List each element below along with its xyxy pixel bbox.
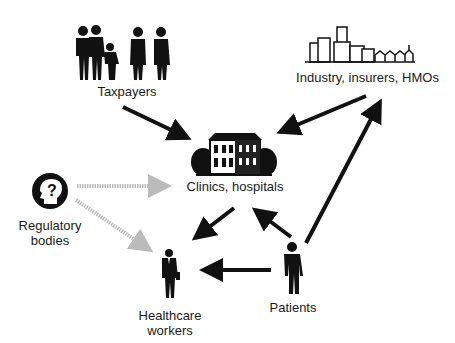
node-label-healthcare-line2: workers [125,323,215,338]
city-skyline-icon [305,27,415,62]
head-question-icon: ? [32,173,68,209]
svg-text:?: ? [47,182,57,199]
person-silhouette-icon [284,242,303,294]
node-label-taxpayers: Taxpayers [92,84,162,99]
hospital-building-icon [191,133,277,176]
family-silhouettes-icon [76,25,170,80]
node-label-regulatory-line1: Regulatory [5,218,95,233]
node-label-industry: Industry, insurers, HMOs [285,70,450,85]
node-label-patients: Patients [258,300,328,315]
businessman-icon [162,249,180,298]
node-label-clinics: Clinics, hospitals [180,179,290,194]
edge-patients-clinics [255,210,291,237]
edge-industry-clinics [280,96,366,132]
node-label-healthcare-line1: Healthcare [125,308,215,323]
edge-patients-industry [306,102,380,243]
node-label-regulatory: Regulatory bodies [5,218,95,248]
edge-clinics-healthcare [195,208,234,238]
node-label-healthcare: Healthcare workers [125,308,215,338]
diagram-canvas: ? [0,0,455,343]
edge-taxpayers-clinics [123,107,188,138]
node-label-regulatory-line2: bodies [5,233,95,248]
